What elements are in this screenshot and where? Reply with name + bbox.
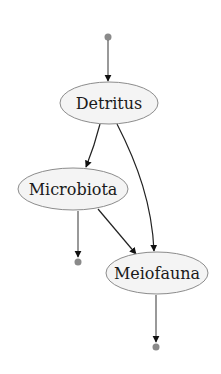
- sink-terminal-dot-2: [153, 344, 160, 351]
- food-web-diagram: Detritus Microbiota Meiofauna: [0, 0, 221, 374]
- node-microbiota: Microbiota: [18, 168, 128, 210]
- sink-terminal-dot-1: [75, 259, 82, 266]
- node-detritus: Detritus: [60, 82, 158, 124]
- node-meiofauna: Meiofauna: [106, 252, 208, 294]
- node-label-meiofauna: Meiofauna: [114, 264, 201, 283]
- edge-microbiota-to-meiofauna: [98, 209, 136, 254]
- node-label-detritus: Detritus: [76, 94, 142, 113]
- edge-detritus-to-microbiota: [86, 124, 100, 167]
- source-terminal-dot: [105, 34, 112, 41]
- node-label-microbiota: Microbiota: [29, 180, 118, 199]
